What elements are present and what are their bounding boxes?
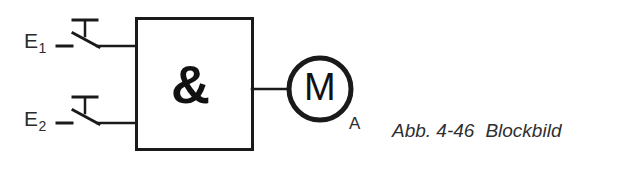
figure-canvas: E1 E2 & M A Abb. 4-46Blockbild xyxy=(0,0,623,171)
figure-caption-title: Blockbild xyxy=(485,120,561,141)
and-gate-symbol: & xyxy=(171,57,210,111)
figure-caption: Abb. 4-46Blockbild xyxy=(392,120,561,142)
input-label-e1-letter: E xyxy=(24,29,38,52)
input-label-e2-letter: E xyxy=(24,107,38,130)
motor-symbol: M xyxy=(304,68,336,106)
input-label-e2: E2 xyxy=(24,108,46,133)
switch-e1[interactable] xyxy=(57,20,137,47)
switch-e2[interactable] xyxy=(57,97,137,124)
input-label-e2-subscript: 2 xyxy=(39,118,47,134)
input-label-e1-subscript: 1 xyxy=(39,40,47,56)
figure-caption-number: Abb. 4-46 xyxy=(392,120,474,141)
input-label-e1: E1 xyxy=(24,30,46,55)
output-label-a: A xyxy=(349,115,360,132)
